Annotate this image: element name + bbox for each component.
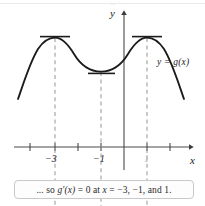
tick-label-negative-one: −1 bbox=[93, 154, 105, 164]
tick-label-negative-three: −3 bbox=[45, 154, 57, 164]
caption-prefix: ... so bbox=[36, 185, 57, 195]
horizontal-tangent-segments bbox=[40, 37, 162, 74]
graph-canvas bbox=[0, 0, 205, 206]
curve-label: y = g(x) bbox=[157, 58, 189, 68]
tick-label-one: 1 bbox=[144, 154, 149, 164]
figure-panel: … · bbox=[0, 0, 205, 206]
caption-text: ... so g′(x) = 0 at x = −3, −1, and 1. bbox=[36, 185, 171, 195]
caption-middle: = 0 at bbox=[75, 185, 102, 195]
caption-callout: ... so g′(x) = 0 at x = −3, −1, and 1. bbox=[14, 180, 194, 199]
y-axis-label: y bbox=[110, 8, 115, 19]
x-axis-label: x bbox=[190, 155, 195, 166]
caption-suffix: = −3, −1, and 1. bbox=[107, 185, 172, 195]
caption-function: g′(x) bbox=[57, 185, 75, 195]
